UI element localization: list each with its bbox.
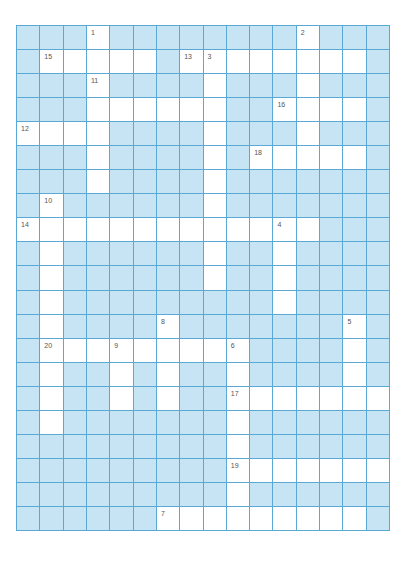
crossword-cell[interactable]: 9 xyxy=(110,339,132,362)
crossword-cell[interactable] xyxy=(87,98,109,121)
crossword-cell[interactable]: 13 xyxy=(180,50,202,73)
crossword-cell[interactable] xyxy=(273,146,295,169)
crossword-cell[interactable] xyxy=(343,98,365,121)
crossword-cell[interactable] xyxy=(273,387,295,410)
crossword-cell[interactable] xyxy=(40,411,62,434)
crossword-cell[interactable]: 18 xyxy=(250,146,272,169)
crossword-cell[interactable] xyxy=(134,98,156,121)
crossword-cell[interactable] xyxy=(40,387,62,410)
crossword-cell[interactable] xyxy=(40,218,62,241)
crossword-cell[interactable] xyxy=(204,122,226,145)
crossword-cell[interactable] xyxy=(134,339,156,362)
crossword-cell[interactable]: 15 xyxy=(40,50,62,73)
crossword-cell[interactable] xyxy=(343,507,365,530)
crossword-cell[interactable] xyxy=(343,339,365,362)
crossword-cell[interactable] xyxy=(134,50,156,73)
crossword-cell[interactable] xyxy=(343,363,365,386)
crossword-cell[interactable] xyxy=(87,146,109,169)
crossword-cell[interactable]: 4 xyxy=(273,218,295,241)
crossword-cell[interactable] xyxy=(40,266,62,289)
crossword-cell[interactable] xyxy=(64,50,86,73)
crossword-cell[interactable] xyxy=(297,507,319,530)
crossword-cell[interactable] xyxy=(40,291,62,314)
crossword-cell[interactable] xyxy=(87,50,109,73)
crossword-cell[interactable] xyxy=(320,507,342,530)
crossword-cell[interactable]: 8 xyxy=(157,315,179,338)
crossword-cell[interactable]: 6 xyxy=(227,339,249,362)
crossword-cell[interactable] xyxy=(110,218,132,241)
crossword-cell[interactable] xyxy=(40,315,62,338)
crossword-cell[interactable] xyxy=(297,146,319,169)
crossword-cell[interactable] xyxy=(367,459,389,482)
crossword-cell[interactable] xyxy=(204,339,226,362)
crossword-cell[interactable] xyxy=(273,266,295,289)
crossword-cell[interactable] xyxy=(227,483,249,506)
crossword-cell[interactable] xyxy=(273,242,295,265)
crossword-cell[interactable] xyxy=(40,242,62,265)
crossword-cell[interactable] xyxy=(134,218,156,241)
crossword-cell[interactable] xyxy=(204,507,226,530)
crossword-cell[interactable]: 3 xyxy=(204,50,226,73)
crossword-cell[interactable]: 19 xyxy=(227,459,249,482)
crossword-cell[interactable] xyxy=(180,507,202,530)
crossword-cell[interactable] xyxy=(320,387,342,410)
crossword-cell[interactable] xyxy=(204,146,226,169)
crossword-cell[interactable] xyxy=(273,291,295,314)
crossword-cell[interactable] xyxy=(157,218,179,241)
crossword-cell[interactable] xyxy=(204,98,226,121)
crossword-cell[interactable] xyxy=(110,387,132,410)
crossword-cell[interactable] xyxy=(87,170,109,193)
crossword-cell[interactable] xyxy=(343,146,365,169)
crossword-cell[interactable] xyxy=(227,50,249,73)
crossword-cell[interactable] xyxy=(204,170,226,193)
crossword-cell[interactable] xyxy=(227,363,249,386)
crossword-cell[interactable] xyxy=(204,194,226,217)
crossword-cell[interactable]: 5 xyxy=(343,315,365,338)
crossword-cell[interactable]: 7 xyxy=(157,507,179,530)
crossword-cell[interactable] xyxy=(157,363,179,386)
crossword-cell[interactable] xyxy=(180,218,202,241)
crossword-cell[interactable] xyxy=(180,339,202,362)
crossword-cell[interactable]: 16 xyxy=(273,98,295,121)
crossword-cell[interactable] xyxy=(297,459,319,482)
crossword-cell[interactable] xyxy=(227,218,249,241)
crossword-cell[interactable] xyxy=(110,98,132,121)
crossword-cell[interactable] xyxy=(227,507,249,530)
crossword-cell[interactable] xyxy=(320,459,342,482)
crossword-cell[interactable] xyxy=(250,218,272,241)
crossword-cell[interactable] xyxy=(64,218,86,241)
crossword-cell[interactable] xyxy=(204,218,226,241)
crossword-cell[interactable]: 10 xyxy=(40,194,62,217)
crossword-cell[interactable] xyxy=(250,387,272,410)
crossword-cell[interactable] xyxy=(250,459,272,482)
crossword-cell[interactable]: 17 xyxy=(227,387,249,410)
crossword-cell[interactable] xyxy=(343,459,365,482)
crossword-cell[interactable] xyxy=(227,411,249,434)
crossword-cell[interactable] xyxy=(320,146,342,169)
crossword-cell[interactable] xyxy=(320,50,342,73)
crossword-cell[interactable] xyxy=(227,435,249,458)
crossword-cell[interactable] xyxy=(297,50,319,73)
crossword-cell[interactable] xyxy=(273,50,295,73)
crossword-cell[interactable] xyxy=(40,363,62,386)
crossword-cell[interactable] xyxy=(64,339,86,362)
crossword-cell[interactable] xyxy=(297,98,319,121)
crossword-cell[interactable] xyxy=(87,339,109,362)
crossword-cell[interactable] xyxy=(87,218,109,241)
crossword-cell[interactable]: 14 xyxy=(17,218,39,241)
crossword-cell[interactable] xyxy=(273,459,295,482)
crossword-cell[interactable] xyxy=(297,122,319,145)
crossword-cell[interactable] xyxy=(297,74,319,97)
crossword-cell[interactable] xyxy=(204,74,226,97)
crossword-cell[interactable] xyxy=(40,122,62,145)
crossword-cell[interactable]: 11 xyxy=(87,74,109,97)
crossword-cell[interactable] xyxy=(204,242,226,265)
crossword-cell[interactable] xyxy=(157,387,179,410)
crossword-cell[interactable] xyxy=(320,98,342,121)
crossword-cell[interactable] xyxy=(343,50,365,73)
crossword-cell[interactable] xyxy=(343,387,365,410)
crossword-cell[interactable] xyxy=(64,122,86,145)
crossword-cell[interactable] xyxy=(110,363,132,386)
crossword-cell[interactable] xyxy=(157,339,179,362)
crossword-cell[interactable]: 20 xyxy=(40,339,62,362)
